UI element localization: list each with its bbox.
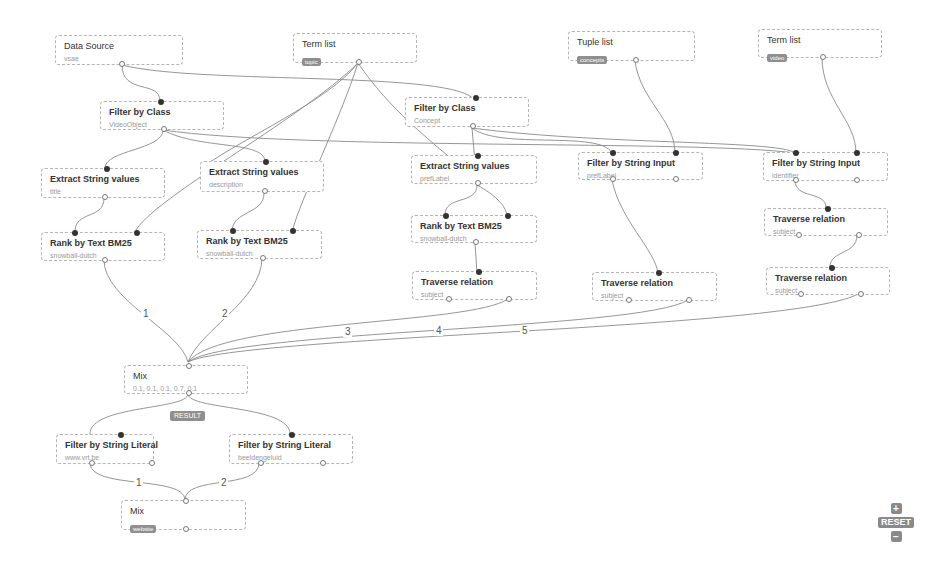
input-port[interactable]: [854, 150, 860, 156]
input-port[interactable]: [505, 213, 511, 219]
node-title: Traverse relation: [421, 277, 528, 288]
input-port[interactable]: [673, 150, 679, 156]
node-rank-description[interactable]: Rank by Text BM25 snowball-dutch: [197, 230, 322, 259]
input-port[interactable]: [118, 432, 124, 438]
input-port[interactable]: [104, 166, 110, 172]
node-rank-preflabel[interactable]: Rank by Text BM25 snowball-dutch: [411, 215, 537, 243]
input-port[interactable]: [158, 99, 164, 105]
output-port[interactable]: [258, 460, 264, 466]
output-port[interactable]: [506, 296, 512, 302]
node-term-list-topic[interactable]: Term list topic: [293, 33, 417, 63]
node-rank-title[interactable]: Rank by Text BM25 snowball-dutch: [41, 232, 165, 261]
node-traverse-relation[interactable]: Traverse relation subject: [592, 272, 717, 301]
output-port[interactable]: [820, 54, 826, 60]
node-filter-class-concept[interactable]: Filter by Class Concept: [405, 97, 529, 127]
output-port[interactable]: [186, 390, 192, 396]
output-port[interactable]: [183, 526, 189, 532]
input-port[interactable]: [186, 363, 192, 369]
node-tuple-list[interactable]: Tuple list concepts: [568, 31, 695, 61]
reset-zoom-button[interactable]: RESET: [878, 517, 914, 528]
result-badge: RESULT: [170, 411, 205, 421]
output-port[interactable]: [854, 177, 860, 183]
output-port[interactable]: [102, 194, 108, 200]
output-port[interactable]: [798, 291, 804, 297]
input-port[interactable]: [825, 206, 831, 212]
node-mix-website[interactable]: Mix website: [121, 500, 246, 530]
node-subtitle: prefLabel: [420, 174, 528, 184]
node-term-list-video[interactable]: Term list video: [758, 29, 882, 58]
input-port[interactable]: [263, 159, 269, 165]
edge-label-b2: 2: [221, 477, 227, 488]
edge-label-1: 1: [143, 308, 149, 319]
output-port[interactable]: [320, 460, 326, 466]
zoom-controls: + RESET −: [875, 503, 917, 542]
output-port[interactable]: [673, 176, 679, 182]
output-port[interactable]: [686, 297, 692, 303]
output-port[interactable]: [149, 460, 155, 466]
node-title: Extract String values: [209, 167, 315, 178]
node-title: Rank by Text BM25: [206, 236, 313, 247]
node-filter-literal-vrt[interactable]: Filter by String Literal www.vrt.be: [56, 434, 154, 464]
output-port[interactable]: [446, 296, 452, 302]
input-port[interactable]: [289, 432, 295, 438]
node-filter-input-preflabel[interactable]: Filter by String Input prefLabel: [578, 152, 703, 180]
output-port[interactable]: [858, 291, 864, 297]
node-subtitle: subject: [775, 286, 881, 296]
input-port[interactable]: [230, 228, 236, 234]
input-port[interactable]: [656, 270, 662, 276]
output-port[interactable]: [610, 176, 616, 182]
node-filter-class-video[interactable]: Filter by Class VideoObject: [100, 101, 224, 130]
output-port[interactable]: [475, 180, 481, 186]
node-title: Traverse relation: [601, 278, 708, 289]
node-title: Rank by Text BM25: [50, 238, 156, 249]
output-port[interactable]: [633, 57, 639, 63]
output-port[interactable]: [856, 232, 862, 238]
node-subtitle: www.vrt.be: [65, 453, 145, 463]
node-subtitle: identifier: [772, 171, 879, 181]
node-traverse-relation[interactable]: Traverse relation subject: [766, 267, 890, 295]
node-title: Tuple list: [577, 37, 686, 48]
input-port[interactable]: [610, 150, 616, 156]
node-filter-literal-beeldengeluid[interactable]: Filter by String Literal beeldengeluid: [229, 434, 353, 464]
zoom-out-button[interactable]: −: [891, 531, 902, 542]
node-extract-title[interactable]: Extract String values title: [41, 168, 165, 198]
input-port[interactable]: [183, 498, 189, 504]
output-port[interactable]: [262, 188, 268, 194]
input-port[interactable]: [473, 95, 479, 101]
input-port[interactable]: [72, 230, 78, 236]
graph-canvas[interactable]: 1 2 3 4 5 1 2 Data Source vsae Term list…: [0, 0, 951, 571]
node-extract-description[interactable]: Extract String values description: [200, 161, 324, 192]
node-extract-preflabel[interactable]: Extract String values prefLabel: [411, 155, 537, 184]
input-port[interactable]: [443, 213, 449, 219]
node-title: Filter by String Literal: [238, 440, 344, 451]
node-filter-input-identifier[interactable]: Filter by String Input identifier: [763, 152, 888, 181]
output-port[interactable]: [161, 126, 167, 132]
node-title: Traverse relation: [773, 214, 879, 225]
output-port[interactable]: [119, 61, 125, 67]
input-port[interactable]: [134, 230, 140, 236]
output-port[interactable]: [473, 239, 479, 245]
input-port[interactable]: [476, 269, 482, 275]
input-port[interactable]: [793, 150, 799, 156]
input-port[interactable]: [290, 228, 296, 234]
node-title: Data Source: [64, 41, 174, 52]
node-title: Filter by String Literal: [65, 440, 145, 451]
output-port[interactable]: [796, 232, 802, 238]
output-port[interactable]: [102, 257, 108, 263]
node-traverse-relation[interactable]: Traverse relation subject: [412, 271, 537, 300]
node-data-source[interactable]: Data Source vsae: [55, 35, 183, 65]
node-traverse-relation[interactable]: Traverse relation subject: [764, 208, 888, 236]
input-port[interactable]: [829, 265, 835, 271]
output-port[interactable]: [260, 255, 266, 261]
node-mix-main[interactable]: Mix 0.1, 0.1, 0.1, 0.7, 0.1: [124, 365, 248, 394]
output-port[interactable]: [470, 123, 476, 129]
node-title: Filter by String Input: [587, 158, 694, 169]
input-port[interactable]: [475, 153, 481, 159]
output-port[interactable]: [89, 460, 95, 466]
zoom-in-button[interactable]: +: [891, 503, 902, 514]
output-port[interactable]: [626, 297, 632, 303]
output-port[interactable]: [356, 59, 362, 65]
node-title: Term list: [302, 39, 408, 50]
node-title: Extract String values: [50, 174, 156, 185]
output-port[interactable]: [793, 177, 799, 183]
